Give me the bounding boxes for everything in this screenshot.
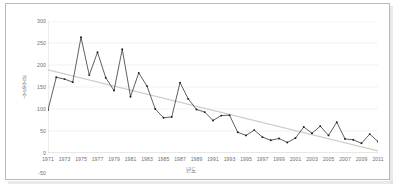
data-point-marker: [163, 117, 165, 119]
data-point-marker: [55, 76, 57, 78]
y-tick-label: 300: [37, 18, 46, 24]
x-tick-label: 1973: [59, 156, 71, 162]
x-tick-label: 1987: [174, 156, 186, 162]
x-tick-label: 1977: [92, 156, 104, 162]
data-point-marker: [237, 131, 239, 133]
data-point-marker: [88, 74, 90, 76]
y-axis-title-char: 수: [20, 93, 29, 99]
x-tick-label: 2007: [339, 156, 351, 162]
data-point-marker: [344, 138, 346, 140]
data-point-marker: [80, 36, 82, 38]
data-point-marker: [146, 85, 148, 87]
data-point-marker: [212, 119, 214, 121]
x-tick-label: 1999: [273, 156, 285, 162]
y-tick-label: 200: [37, 62, 46, 68]
data-point-marker: [319, 125, 321, 127]
data-point-marker: [105, 77, 107, 79]
data-point-marker: [278, 138, 280, 140]
x-tick-label: 1971: [42, 156, 54, 162]
data-point-marker: [295, 137, 297, 139]
trendline: [48, 70, 378, 151]
data-point-marker: [336, 121, 338, 123]
y-tick-label-negative: -50: [38, 170, 46, 176]
data-point-marker: [130, 96, 132, 98]
data-point-marker: [171, 116, 173, 118]
x-tick-label: 2009: [356, 156, 368, 162]
plot-area: [48, 21, 378, 153]
x-tick-label: 1997: [257, 156, 269, 162]
x-tick-label: 1991: [207, 156, 219, 162]
y-tick-label: 150: [37, 84, 46, 90]
data-point-marker: [97, 51, 99, 53]
data-point-marker: [369, 133, 371, 135]
x-tick-label: 1995: [240, 156, 252, 162]
data-point-marker: [220, 115, 222, 117]
data-point-marker: [328, 134, 330, 136]
data-point-marker: [311, 132, 313, 134]
chart-screenshot: 300250200150100500 -50 강수일수 197119731975…: [0, 0, 404, 195]
data-series-layer: [48, 21, 378, 153]
x-tick-label: 1993: [224, 156, 236, 162]
figure-shadow-right: [390, 6, 393, 184]
data-point-marker: [270, 139, 272, 141]
x-tick-label: 2001: [290, 156, 302, 162]
data-point-marker: [121, 48, 123, 50]
data-point-marker: [262, 136, 264, 138]
data-point-marker: [187, 98, 189, 100]
data-point-marker: [64, 78, 66, 80]
x-tick-label: 2011: [372, 156, 383, 162]
figure-shadow-bottom: [8, 181, 393, 184]
data-point-marker: [253, 129, 255, 131]
y-tick-label: 50: [40, 128, 46, 134]
y-tick-label: 100: [37, 106, 46, 112]
x-axis-title: 년도: [186, 166, 196, 174]
x-tick-label: 2005: [323, 156, 335, 162]
y-axis-title: 강수일수: [20, 76, 29, 98]
data-point-marker: [286, 141, 288, 143]
x-tick-label: 1983: [141, 156, 153, 162]
x-tick-label: 1979: [108, 156, 120, 162]
data-point-marker: [154, 108, 156, 110]
data-point-marker: [196, 108, 198, 110]
data-point-marker: [303, 126, 305, 128]
data-point-marker: [361, 142, 363, 144]
data-point-marker: [179, 82, 181, 84]
x-tick-label: 1975: [75, 156, 87, 162]
data-point-marker: [113, 90, 115, 92]
x-tick-label: 2003: [306, 156, 318, 162]
data-point-marker: [352, 139, 354, 141]
x-tick-label: 1985: [158, 156, 170, 162]
data-point-marker: [245, 134, 247, 136]
data-point-marker: [229, 114, 231, 116]
data-point-marker: [72, 81, 74, 83]
x-tick-label: 1981: [125, 156, 137, 162]
data-point-marker: [204, 111, 206, 113]
x-axis-tick-labels: 1971197319751977197919811983198519871989…: [48, 155, 378, 165]
x-tick-label: 1989: [191, 156, 203, 162]
data-point-marker: [138, 72, 140, 74]
data-point-marker: [48, 109, 49, 111]
y-axis-extra-tick-label: -50: [22, 169, 46, 177]
y-tick-label: 250: [37, 40, 46, 46]
